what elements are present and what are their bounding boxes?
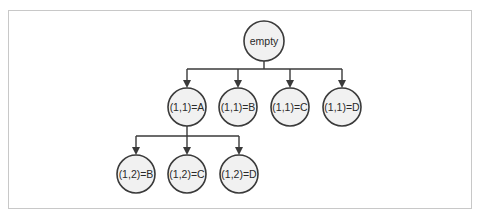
tree-diagram: empty (1,1)=A (1,1)=B (1,1)=C (1,1)=D (1… [0,0,479,217]
node-label: (1,2)=B [119,168,154,180]
arrow-down-icon [183,147,191,155]
node-l1-d: (1,1)=D [323,88,361,126]
arrow-down-icon [183,80,191,88]
node-l2-c: (1,2)=C [168,155,206,193]
node-label: (1,2)=C [169,168,205,180]
node-l1-a: (1,1)=A [168,88,206,126]
node-label: (1,1)=A [170,101,205,113]
arrow-down-icon [235,147,243,155]
node-l1-c: (1,1)=C [271,88,309,126]
node-label: (1,1)=D [324,101,360,113]
node-label: empty [250,35,279,47]
edges-a [132,126,243,155]
node-l2-b: (1,2)=B [117,155,155,193]
node-label: (1,1)=B [221,101,256,113]
node-label: (1,1)=C [272,101,308,113]
node-l1-b: (1,1)=B [219,88,257,126]
node-label: (1,2)=D [221,168,257,180]
node-l2-d: (1,2)=D [220,155,258,193]
edges-root [183,61,346,88]
arrow-down-icon [234,80,242,88]
node-root: empty [244,21,284,61]
arrow-down-icon [286,80,294,88]
arrow-down-icon [132,147,140,155]
arrow-down-icon [338,80,346,88]
